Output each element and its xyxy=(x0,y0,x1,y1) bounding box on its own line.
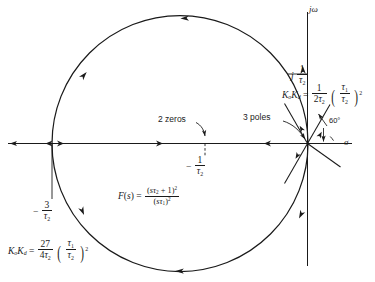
zeros-annotation: 2 zeros xyxy=(158,115,186,124)
pole-arrow-c xyxy=(317,131,324,139)
locus-arrow-upper-left xyxy=(79,70,88,80)
angle-pointer-up xyxy=(319,114,328,126)
asymptote-lower-left xyxy=(285,144,308,184)
locus-arrow-lower-left xyxy=(78,205,87,215)
transfer-function-equation: F(s) = (sτ2 + 1)2 (sτ1)2 xyxy=(118,186,180,206)
poles-annotation: 3 poles xyxy=(243,113,270,122)
breakaway-location-label: − 3 τ2 xyxy=(33,200,53,222)
pole-arrow-b xyxy=(293,152,300,160)
zeros-leader xyxy=(196,123,205,157)
asymptote-lower-right xyxy=(308,144,341,168)
locus-arrow-bottom xyxy=(175,268,184,274)
root-locus-figure: jω σ 2 zeros 3 poles 60° − 1 τ2 − 3 τ2 j… xyxy=(0,0,375,282)
zero-location-label: − 1 τ2 xyxy=(186,155,206,177)
angle-annotation: 60° xyxy=(329,117,340,125)
gain-breakaway-equation: KoKd = 27 4τ2 ( τ1 τ2 )2 xyxy=(8,238,88,261)
asymptote-upper-right xyxy=(308,105,331,144)
locus-arrow-lower-right xyxy=(298,210,305,220)
real-axis-label: σ xyxy=(344,138,348,147)
imaginary-axis-label: jω xyxy=(309,5,318,14)
gain-jw-crossing-equation: KoKd = 1 2τ2 ( τ1 τ2 )2 xyxy=(282,82,362,105)
